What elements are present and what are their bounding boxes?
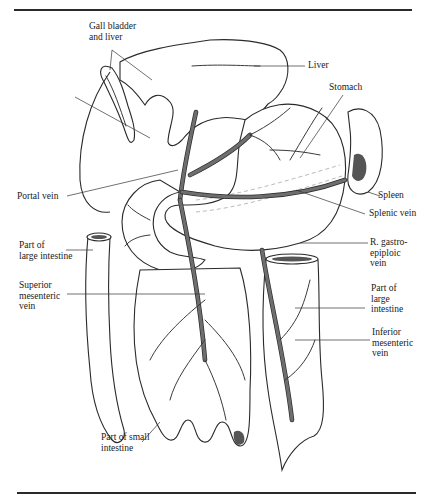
label-superior-mesenteric-vein: Superior mesenteric vein <box>19 280 60 312</box>
label-splenic-vein: Splenic vein <box>369 208 416 219</box>
large-intestine-right-illustration <box>263 254 323 470</box>
label-spleen: Spleen <box>378 190 404 201</box>
label-large-intestine-right: Part of large intestine <box>371 283 403 315</box>
label-large-intestine-left: Part of large intestine <box>19 240 72 261</box>
large-intestine-left-illustration <box>86 233 124 442</box>
bile-duct-loop <box>80 72 110 212</box>
spleen-illustration <box>348 109 383 194</box>
label-stomach: Stomach <box>329 82 362 93</box>
label-liver: Liver <box>308 60 329 71</box>
intestine-lumen-left <box>91 235 107 239</box>
label-portal-vein: Portal vein <box>17 191 58 202</box>
label-r-gastro-epiploic-vein: R. gastro- epiploic vein <box>370 237 407 269</box>
label-gall-bladder-and-liver: Gall bladder and liver <box>89 21 136 42</box>
intestine-lumen-right <box>272 257 312 262</box>
label-small-intestine: Part of small intestine <box>101 432 150 453</box>
label-inferior-mesenteric-vein: Inferior mesenteric vein <box>372 327 413 359</box>
